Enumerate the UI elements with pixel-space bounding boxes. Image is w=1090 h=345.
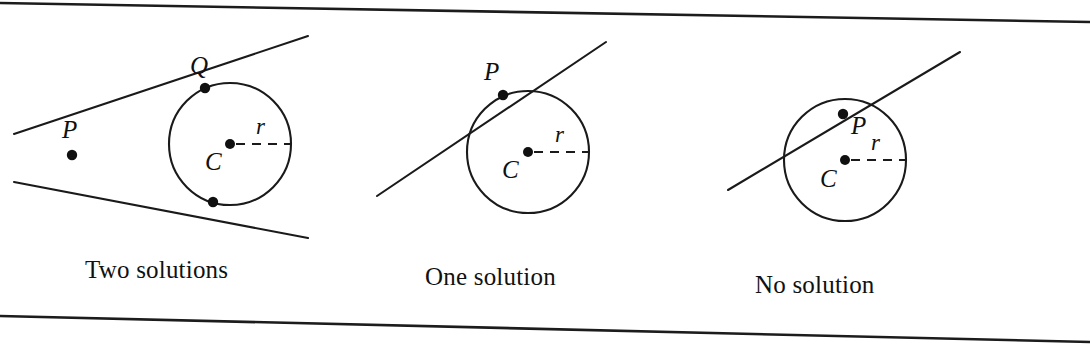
point-label-p: P [483, 58, 499, 85]
geometry-figure: CrPQCrPCrP Two solutionsOne solutionNo s… [0, 0, 1090, 345]
center-point-dot [225, 139, 235, 149]
top-rule [0, 3, 1090, 22]
radius-label-r: r [256, 114, 266, 139]
point-label-p: P [850, 112, 866, 139]
point-label-p: P [61, 116, 77, 143]
panels-group: CrPQCrPCrP [14, 36, 960, 238]
figure-canvas: CrPQCrPCrP [0, 0, 1090, 345]
point-dot-q [200, 83, 210, 93]
panel-two-solutions: CrPQ [14, 36, 308, 238]
center-point-dot [523, 147, 533, 157]
point-dot-p [67, 150, 77, 160]
panel-caption-one-solution: One solution [425, 263, 556, 291]
line-lower-secant [14, 182, 308, 238]
panel-caption-two-solutions: Two solutions [85, 256, 228, 284]
radius-label-r: r [555, 122, 565, 147]
bottom-rule [0, 316, 1090, 342]
panel-caption-no-solution: No solution [755, 271, 875, 299]
panel-one-solution: CrP [377, 42, 606, 213]
center-label-c: C [205, 148, 222, 175]
center-label-c: C [502, 156, 519, 183]
point-dot-p [498, 90, 508, 100]
center-point-dot [840, 155, 850, 165]
line-secant-line [728, 52, 960, 190]
rules-group [0, 3, 1090, 342]
panel-no-solution: CrP [728, 52, 960, 221]
radius-label-r: r [871, 130, 881, 155]
point-dot-p [838, 109, 848, 119]
point-label-q: Q [190, 52, 208, 79]
point-dot-tangent-lower [208, 197, 218, 207]
center-label-c: C [820, 165, 837, 192]
